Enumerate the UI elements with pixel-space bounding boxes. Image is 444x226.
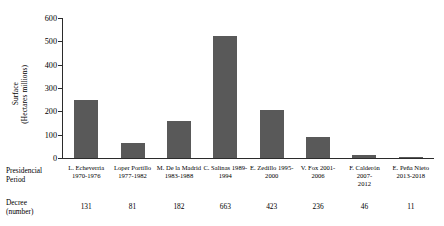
bar-cell <box>202 18 248 158</box>
row-label-decree-line1: Decree <box>6 198 62 207</box>
bar <box>352 155 376 159</box>
bar-cell <box>341 18 387 158</box>
y-tick-mark <box>58 158 62 159</box>
y-axis-title-line2: (Hectares millions) <box>20 65 29 124</box>
x-axis-category-label-line: V. Fox 2001-2006 <box>296 164 340 180</box>
decree-number-value: 81 <box>109 202 155 211</box>
x-axis-category-label-line: 2000 <box>250 172 294 180</box>
decree-number-value: 663 <box>202 202 248 211</box>
x-axis-category-label: V. Fox 2001-2006 <box>295 164 341 189</box>
bar-cell <box>295 18 341 158</box>
decree-number-value: 423 <box>249 202 295 211</box>
y-tick-label: 100 <box>45 130 57 139</box>
decree-number-value: 11 <box>388 202 434 211</box>
y-tick-mark <box>58 18 62 19</box>
x-axis-category-label-line: F. Calderón 2007- <box>342 164 386 180</box>
x-axis-category-label: E. Zedillo 1995-2000 <box>249 164 295 189</box>
chart-figure: Surface (Hectares millions) 010020030040… <box>0 0 444 226</box>
y-tick-mark <box>58 41 62 42</box>
y-tick-label: 300 <box>45 84 57 93</box>
bar <box>306 137 330 158</box>
row-label-decree: Decree (number) <box>6 198 62 216</box>
y-axis-title-line1: Surface <box>11 82 20 105</box>
y-tick-label: 200 <box>45 107 57 116</box>
x-axis-category-label-line: Loper Portillo <box>110 164 154 172</box>
x-axis-category-label-line: 2013-2018 <box>389 172 433 180</box>
x-axis-category-label: F. Calderón 2007-2012 <box>341 164 387 189</box>
bar <box>167 121 191 158</box>
bar <box>399 157 423 158</box>
y-tick-label: 500 <box>45 37 57 46</box>
decree-number-value: 131 <box>63 202 109 211</box>
x-axis-category-label-line: 1994 <box>203 172 247 180</box>
bar <box>121 143 145 158</box>
x-axis-category-label: L. Echeverria1970-1976 <box>63 164 109 189</box>
decree-number-value: 236 <box>295 202 341 211</box>
bar <box>74 100 98 158</box>
y-tick-mark <box>58 111 62 112</box>
plot-area: 0100200300400500600 <box>62 18 434 159</box>
y-tick-mark <box>58 135 62 136</box>
x-axis-category-label-line: 1983-1988 <box>157 172 201 180</box>
x-axis-category-label-line: M. De la Madrid <box>157 164 201 172</box>
decree-number-value: 182 <box>156 202 202 211</box>
y-axis-title: Surface (Hectares millions) <box>2 34 38 154</box>
x-axis-category-label-line: 2012 <box>342 180 386 188</box>
x-axis-category-label-line: E. Zedillo 1995- <box>250 164 294 172</box>
y-tick-label: 0 <box>53 154 57 163</box>
x-axis-category-label-line: 1977-1982 <box>110 172 154 180</box>
x-axis-category-label: E. Peña Nieto2013-2018 <box>388 164 434 189</box>
bar <box>260 110 284 158</box>
x-axis-category-labels: L. Echeverria1970-1976Loper Portillo1977… <box>63 164 434 189</box>
bar-cell <box>388 18 434 158</box>
bar-cell <box>109 18 155 158</box>
x-axis-category-label-line: C. Salinas 1989- <box>203 164 247 172</box>
y-tick-label: 600 <box>45 14 57 23</box>
y-tick-mark <box>58 65 62 66</box>
x-axis-category-label: M. De la Madrid1983-1988 <box>156 164 202 189</box>
decree-number-values: 131811826634232364611 <box>63 202 434 211</box>
row-label-presidencial-period: Presidencial Period <box>6 166 62 184</box>
y-tick: 0 <box>62 158 63 159</box>
bar-series <box>63 18 434 158</box>
bar-cell <box>249 18 295 158</box>
y-tick-label: 400 <box>45 60 57 69</box>
y-tick-mark <box>58 88 62 89</box>
bar-cell <box>156 18 202 158</box>
bar-cell <box>63 18 109 158</box>
x-axis-category-label: C. Salinas 1989-1994 <box>202 164 248 189</box>
row-label-period-line1: Presidencial <box>6 166 62 175</box>
bar <box>213 36 237 159</box>
row-label-period-line2: Period <box>6 175 62 184</box>
x-axis-line <box>62 158 434 159</box>
x-axis-category-label-line: 1970-1976 <box>64 172 108 180</box>
x-axis-category-label: Loper Portillo1977-1982 <box>109 164 155 189</box>
row-label-decree-line2: (number) <box>6 207 62 216</box>
x-axis-category-label-line: L. Echeverria <box>64 164 108 172</box>
x-axis-category-label-line: E. Peña Nieto <box>389 164 433 172</box>
decree-number-value: 46 <box>341 202 387 211</box>
